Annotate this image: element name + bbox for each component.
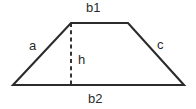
label-bottom-base-b2: b2	[88, 92, 103, 105]
label-height-h: h	[78, 53, 85, 66]
trapezoid-outline	[13, 23, 184, 85]
label-top-base-b1: b1	[86, 1, 101, 14]
label-left-leg-a: a	[29, 39, 36, 52]
label-right-leg-c: c	[157, 38, 164, 51]
trapezoid-diagram: b1 b2 a c h	[0, 0, 196, 109]
